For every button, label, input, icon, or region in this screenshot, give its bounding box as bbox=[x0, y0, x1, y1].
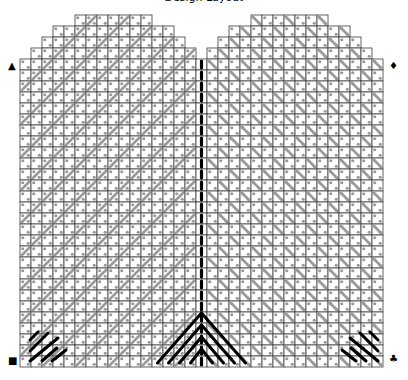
square-marker-icon: ■ bbox=[8, 356, 17, 366]
club-marker-icon: ♣ bbox=[389, 354, 398, 364]
stitch-grid bbox=[0, 0, 408, 380]
diamond-marker-icon: ♦ bbox=[389, 61, 398, 71]
triangle-marker-icon: ▲ bbox=[8, 61, 16, 71]
